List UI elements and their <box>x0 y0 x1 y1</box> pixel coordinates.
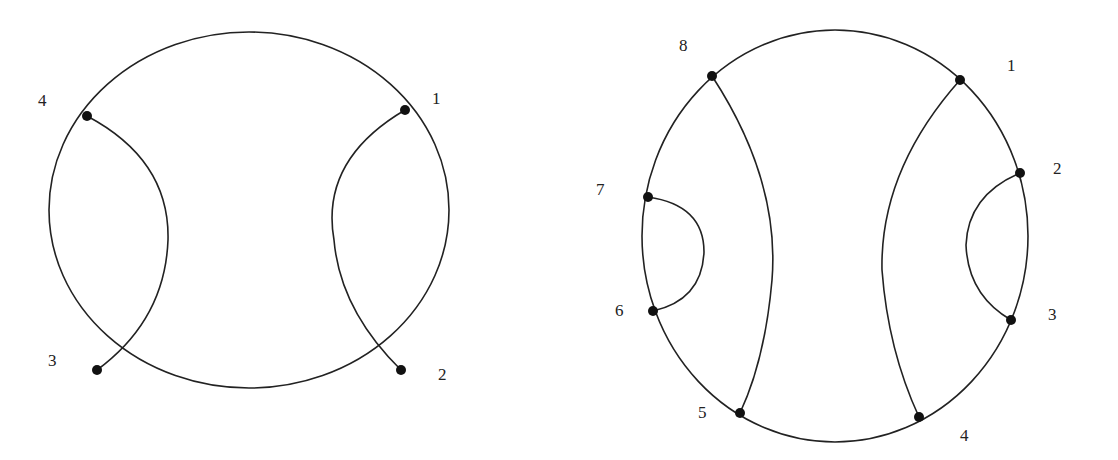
label-1: 1 <box>1007 56 1016 75</box>
chord-1-4 <box>882 80 960 417</box>
point-1 <box>400 105 410 115</box>
chord-1-2 <box>332 110 405 370</box>
label-5: 5 <box>698 403 707 422</box>
outer-circle <box>49 32 449 388</box>
chord-5-8 <box>712 76 773 413</box>
point-2 <box>1015 168 1025 178</box>
label-3: 3 <box>48 351 57 370</box>
chord-diagram-left: 1 2 3 4 <box>38 32 449 388</box>
diagram-canvas: 1 2 3 4 1 2 3 4 5 6 7 8 <box>0 0 1118 460</box>
outer-circle <box>642 30 1028 442</box>
label-2: 2 <box>438 365 447 384</box>
chord-3-4 <box>87 116 168 370</box>
label-8: 8 <box>679 36 688 55</box>
point-5 <box>735 408 745 418</box>
point-3 <box>92 365 102 375</box>
point-3 <box>1006 315 1016 325</box>
chord-2-3 <box>966 173 1020 320</box>
chord-diagram-right: 1 2 3 4 5 6 7 8 <box>596 30 1062 445</box>
point-4 <box>914 412 924 422</box>
label-2: 2 <box>1053 159 1062 178</box>
point-1 <box>955 75 965 85</box>
chord-6-7 <box>648 197 704 311</box>
label-1: 1 <box>432 89 441 108</box>
point-4 <box>82 111 92 121</box>
point-7 <box>643 192 653 202</box>
label-4: 4 <box>38 91 47 110</box>
label-3: 3 <box>1048 305 1057 324</box>
point-8 <box>707 71 717 81</box>
label-6: 6 <box>615 301 624 320</box>
label-7: 7 <box>596 180 605 199</box>
point-6 <box>648 306 658 316</box>
label-4: 4 <box>960 426 969 445</box>
point-2 <box>396 365 406 375</box>
